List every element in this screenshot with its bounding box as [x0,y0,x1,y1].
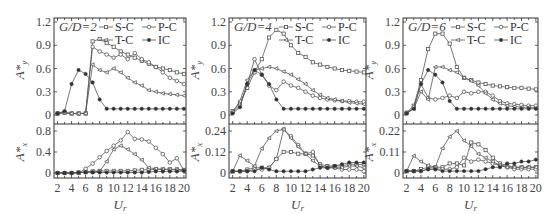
legend-item: S-C [115,20,134,34]
y-tick-label: 0 [45,166,51,180]
gap-ratio-label: G/D=6 [408,19,446,34]
y-tick-label: 0.11 [379,145,400,159]
series-p-c [56,130,186,175]
figure: 00.30.60.91.200.40.82468101214161820UrA*… [0,0,558,214]
y-tick-label: 0.12 [205,145,226,159]
legend-item: T-C [295,33,313,47]
legend-item: P-C [158,20,177,34]
y-tick-label: 0.3 [36,85,51,99]
x-tick-label: 20 [178,181,190,195]
x-tick-label: 4 [244,181,250,195]
x-tick-label: 12 [300,181,312,195]
legend: S-CP-CT-CIC [279,20,357,47]
y-tick-label: 0.9 [36,38,51,52]
x-tick-label: 14 [314,181,326,195]
legend-item: T-C [467,33,485,47]
x-axis-label: Ur [114,197,127,213]
series-p-c [56,45,186,115]
x-tick-label: 2 [55,181,61,195]
x-tick-label: 10 [108,181,120,195]
y-tick-label: 0 [220,108,226,122]
x-tick-label: 6 [83,181,89,195]
x-tick-label: 16 [501,181,513,195]
legend-item: T-C [115,33,133,47]
gap-ratio-label: G/D=2 [59,19,97,34]
x-tick-label: 10 [285,181,297,195]
x-tick-label: 6 [259,181,265,195]
y-tick-label: 0.22 [379,124,400,138]
series-t-c [405,129,538,173]
x-axis-label: Ur [464,197,477,213]
y-axis-label-upper: A*y [361,61,378,80]
legend-item: IC [158,33,170,47]
series-t-c [231,127,366,173]
y-tick-label: 1.2 [385,15,400,29]
y-tick-label: 0 [394,108,400,122]
panel-1-lower: 00.40.8 [36,124,186,180]
x-tick-label: 12 [472,181,484,195]
x-tick-label: 12 [122,181,134,195]
legend-item: S-C [295,20,314,34]
legend-item: IC [510,33,522,47]
series-p-c [231,57,366,114]
x-tick-label: 18 [164,181,176,195]
legend-item: S-C [467,20,486,34]
y-tick-label: 0 [45,108,51,122]
y-tick-label: 0.9 [385,38,400,52]
y-tick-label: 0.8 [36,124,51,138]
x-tick-label: 4 [69,181,75,195]
x-tick-label: 2 [230,181,236,195]
y-tick-label: 1.2 [36,15,51,29]
legend: S-CP-CT-CIC [451,20,529,47]
y-tick-label: 0.6 [36,62,51,76]
y-tick-label: 0.4 [36,145,51,159]
legend-item: P-C [510,20,529,34]
x-tick-label: 18 [515,181,527,195]
x-tick-label: 8 [273,181,279,195]
x-tick-label: 6 [432,181,438,195]
y-tick-label: 0.6 [385,62,400,76]
y-axis-label-lower: A*x [187,143,204,162]
x-tick-label: 18 [343,181,355,195]
y-tick-label: 0.9 [211,38,226,52]
x-axis-label: Ur [291,197,304,213]
x-tick-label: 8 [447,181,453,195]
y-axis-label-lower: A*x [361,143,378,162]
y-tick-label: 0.3 [385,85,400,99]
x-tick-label: 20 [358,181,370,195]
y-tick-label: 0.6 [211,62,226,76]
x-tick-label: 16 [150,181,162,195]
y-tick-label: 0 [220,166,226,180]
x-tick-label: 4 [418,181,424,195]
y-tick-label: 1.2 [211,15,226,29]
y-tick-label: 0.3 [211,85,226,99]
x-tick-label: 20 [530,181,542,195]
legend-item: IC [338,33,350,47]
legend-item: P-C [338,20,357,34]
y-axis-label-lower: A*x [12,143,29,162]
x-tick-label: 16 [329,181,341,195]
y-axis-label-upper: A*y [12,61,29,80]
legend: S-CP-CT-CIC [99,20,177,47]
y-tick-label: 0 [394,166,400,180]
x-tick-label: 8 [97,181,103,195]
x-tick-label: 14 [136,181,148,195]
x-tick-label: 10 [458,181,470,195]
x-tick-label: 14 [487,181,499,195]
y-tick-label: 0.24 [205,124,226,138]
series-p-c [231,127,366,173]
gap-ratio-label: G/D=4 [234,19,272,34]
y-axis-label-upper: A*y [187,61,204,80]
x-tick-label: 2 [404,181,410,195]
